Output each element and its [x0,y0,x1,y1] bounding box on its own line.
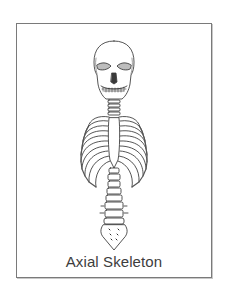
lumbar-vertebrae-icon [100,168,128,217]
figure-caption: Axial Skeleton [16,253,212,270]
axial-skeleton-illustration [0,0,226,294]
sternum-icon [108,118,119,168]
cervical-vertebrae-icon [108,100,120,115]
sacrum-icon [101,218,127,250]
skull-icon [94,41,134,99]
